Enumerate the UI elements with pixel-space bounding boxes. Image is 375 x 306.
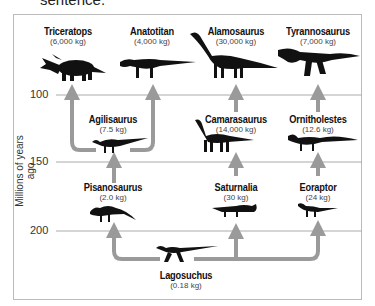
species-mass: (2.0 kg) [80, 194, 146, 203]
species-mass: (30,000 kg) [204, 38, 268, 47]
saturnalia-silhouette [212, 204, 257, 217]
species-mass: (7.5 kg) [86, 126, 141, 135]
species-mass: (14,000 kg) [201, 126, 272, 135]
tick-200: 200 [30, 224, 48, 236]
species-name: Lagosuchus [160, 270, 213, 282]
species-mass: (0.18 kg) [156, 282, 216, 291]
species-name: Triceratops [44, 26, 92, 38]
tyrannosaurus-silhouette [278, 48, 360, 76]
species-mass: (30 kg) [212, 194, 261, 203]
silhouettes [40, 32, 360, 262]
species-mass: (6,000 kg) [41, 38, 95, 47]
species-name: Agilisaurus [89, 114, 137, 126]
pisanosaurus-silhouette [90, 206, 136, 222]
species-anatotitan: Anatotitan (4,000 kg) [127, 26, 177, 46]
species-mass: (12.6 kg) [285, 126, 350, 135]
species-name: Pisanosaurus [84, 182, 142, 194]
species-agilisaurus: Agilisaurus (7.5 kg) [86, 114, 141, 134]
species-lagosuchus: Lagosuchus (0.18 kg) [156, 270, 216, 290]
triceratops-silhouette [40, 54, 106, 81]
species-mass: (7,000 kg) [282, 38, 354, 47]
ornitholestes-silhouette [288, 134, 358, 151]
species-saturnalia: Saturnalia (30 kg) [212, 182, 261, 202]
species-name: Tyrannosaurus [286, 26, 350, 38]
species-ornitholestes: Ornitholestes (12.6 kg) [285, 114, 350, 134]
species-name: Anatotitan [130, 26, 174, 38]
species-mass: (4,000 kg) [127, 38, 177, 47]
species-tyrannosaurus: Tyrannosaurus (7,000 kg) [282, 26, 354, 46]
species-triceratops: Triceratops (6,000 kg) [41, 26, 95, 46]
anatotitan-silhouette [120, 59, 196, 78]
species-name: Eoraptor [299, 182, 336, 194]
tick-150: 150 [30, 155, 48, 167]
species-name: Ornitholestes [289, 114, 346, 126]
species-alamosaurus: Alamosaurus (30,000 kg) [204, 26, 268, 46]
y-axis-label: Millions of years ago [14, 126, 36, 216]
tick-100: 100 [30, 88, 48, 100]
species-eoraptor: Eoraptor (24 kg) [297, 182, 339, 202]
species-name: Alamosaurus [208, 26, 265, 38]
species-pisanosaurus: Pisanosaurus (2.0 kg) [80, 182, 146, 202]
species-camarasaurus: Camarasaurus (14,000 kg) [201, 114, 272, 134]
species-name: Saturnalia [215, 182, 258, 194]
species-mass: (24 kg) [297, 194, 339, 203]
eoraptor-silhouette [298, 203, 338, 217]
species-name: Camarasaurus [205, 114, 267, 126]
